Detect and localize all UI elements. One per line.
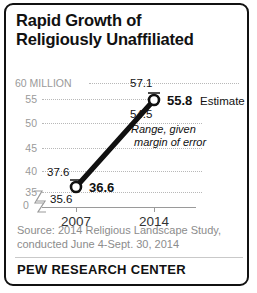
data-series [6, 53, 249, 218]
title-line-2: Religiously Unaffiliated [16, 30, 244, 49]
title-line-1: Rapid Growth of [16, 11, 244, 30]
data-marker-2007 [71, 182, 81, 192]
data-label-2014-lower: 54.5 [130, 108, 152, 120]
infographic-card: Rapid Growth of Religiously Unaffiliated… [4, 3, 249, 286]
data-label-2007-lower: 35.6 [50, 193, 72, 205]
page-title: Rapid Growth of Religiously Unaffiliated [16, 11, 244, 49]
data-label-2014-value: 55.8 [167, 93, 192, 108]
footer-divider [15, 257, 243, 258]
data-marker-2014 [149, 95, 159, 105]
source-note: Source: 2014 Religious Landscape Study, … [17, 223, 243, 251]
range-annotation-line-2: margin of error [134, 136, 206, 149]
data-label-2007-value: 36.6 [89, 180, 114, 195]
data-label-2014-estimate: Estimate [200, 95, 245, 107]
brand-label: PEW RESEARCH CENTER [17, 262, 186, 277]
range-annotation-line-1: Range, given [131, 123, 196, 136]
data-label-2007-upper: 37.6 [47, 166, 69, 178]
data-label-2014-upper: 57.1 [130, 77, 152, 89]
chart-plot-area: 60 MILLION 55 50 45 40 35 0 2007 2014 37… [6, 53, 249, 218]
